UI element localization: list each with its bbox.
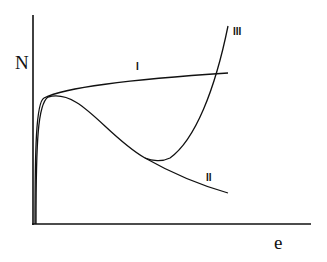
- curve-I-label: I: [136, 61, 139, 72]
- diagram-canvas: [0, 0, 327, 262]
- curve-III-label: III: [233, 26, 241, 37]
- x-axis-label: e: [274, 232, 282, 254]
- curve-II: [36, 96, 228, 224]
- curve-II-label: II: [206, 172, 212, 183]
- y-axis-label: N: [15, 52, 29, 74]
- curve-III: [145, 26, 228, 161]
